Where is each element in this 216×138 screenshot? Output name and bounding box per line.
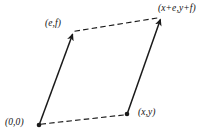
solid-vector-origin-to-ef bbox=[39, 34, 72, 124]
vector-parallelogram-figure: (0,0) (e,f) (x,y) (x+e,y+f) bbox=[0, 0, 216, 138]
origin-dot bbox=[37, 123, 42, 128]
label-vector-xy: (x,y) bbox=[138, 108, 156, 118]
dashed-edge-origin-to-xy bbox=[41, 115, 126, 124]
dashed-edge-ef-to-sum bbox=[75, 18, 160, 32]
label-vector-sum: (x+e,y+f) bbox=[158, 4, 196, 14]
xy-dot bbox=[125, 112, 130, 117]
vector-diagram-canvas bbox=[0, 0, 216, 138]
solid-vector-xy-to-sum bbox=[127, 19, 160, 113]
label-vector-ef: (e,f) bbox=[45, 19, 61, 29]
label-origin: (0,0) bbox=[5, 118, 24, 128]
